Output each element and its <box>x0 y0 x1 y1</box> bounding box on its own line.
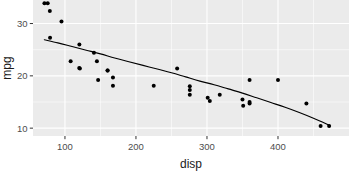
y-axis-title: mpg <box>0 56 14 79</box>
scatter-plot: 100200300400 102030 disp mpg <box>0 0 349 178</box>
chart-container: 100200300400 102030 disp mpg <box>0 0 349 178</box>
y-tick-label: 10 <box>17 123 28 134</box>
y-axis-ticks: 102030 <box>17 18 33 134</box>
x-axis-ticks: 100200300400 <box>57 136 286 152</box>
x-tick-label: 400 <box>270 141 286 152</box>
x-tick-label: 100 <box>57 141 73 152</box>
y-tick-label: 20 <box>17 70 28 81</box>
x-tick-label: 300 <box>199 141 215 152</box>
x-axis-title: disp <box>180 157 202 171</box>
y-tick-label: 30 <box>17 18 28 29</box>
x-tick-label: 200 <box>128 141 144 152</box>
